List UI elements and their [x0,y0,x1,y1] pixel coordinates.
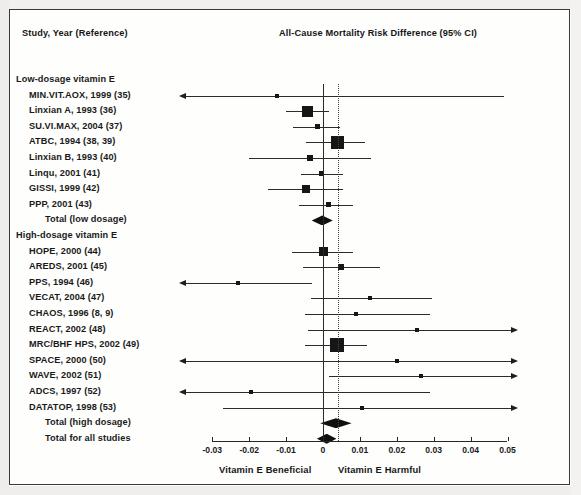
x-axis-tick-label: 0.02 [388,445,405,455]
page-margin-left [0,0,9,495]
summary-row-label: Total (low dosage) [45,214,127,225]
group-heading-label: Low-dosage vitamin E [16,74,115,85]
study-row-label: PPS, 1994 (46) [29,277,93,288]
plot-column-header: All-Cause Mortality Risk Difference (95%… [279,28,477,38]
study-row-label: CHAOS, 1996 (8, 9) [29,308,114,319]
x-axis-tick-label: 0.01 [352,445,369,455]
study-row-label: SU.VI.MAX, 2004 (37) [29,121,122,132]
study-row-label: SPACE, 2000 (50) [29,355,106,366]
study-row-label: PPP, 2001 (43) [29,199,92,210]
x-axis-tick-label: -0.02 [239,445,259,455]
summary-row-label: Total for all studies [45,433,131,444]
study-row-label: GISSI, 1999 (42) [29,183,100,194]
study-row-label: REACT, 2002 (48) [29,324,106,335]
page-margin-bottom [0,486,581,495]
study-row-label: HOPE, 2000 (44) [29,246,101,257]
x-axis-tick [434,437,435,441]
study-row-label: Linxian B, 1993 (40) [29,152,117,163]
study-row-label: MIN.VIT.AOX, 1999 (35) [29,90,131,101]
page-margin-right [571,0,581,495]
study-row-label: VECAT, 2004 (47) [29,292,104,303]
summary-row-label: Total (high dosage) [45,417,131,428]
x-axis-tick [286,437,287,441]
x-axis-tick [471,437,472,441]
forest-plot-figure: Study, Year (Reference) All-Cause Mortal… [0,0,581,495]
study-column-header: Study, Year (Reference) [22,28,128,38]
x-axis-line [212,441,507,442]
x-axis-tick-label: 0 [321,445,326,455]
axis-footer-harmful: Vitamin E Harmful [338,464,421,475]
x-axis-tick-label: -0.01 [276,445,296,455]
study-row-label: Linqu, 2001 (41) [29,168,100,179]
study-row-label: WAVE, 2002 (51) [29,370,101,381]
x-axis-tick-label: 0.03 [425,445,442,455]
x-axis-tick [323,437,324,441]
x-axis-tick [212,437,213,441]
study-row-label: DATATOP, 1998 (53) [29,402,116,413]
group-heading-label: High-dosage vitamin E [16,230,117,241]
x-axis-tick-label: 0.04 [462,445,479,455]
study-row-label: AREDS, 2001 (45) [29,261,107,272]
study-row-label: MRC/BHF HPS, 2002 (49) [29,339,139,350]
x-axis-tick [360,437,361,441]
study-row-label: Linxian A, 1993 (36) [29,105,116,116]
page-margin-top [0,0,581,9]
axis-footer-beneficial: Vitamin E Beneficial [219,464,311,475]
x-axis-tick-label: -0.03 [203,445,223,455]
x-axis-tick-label: 0.05 [499,445,516,455]
x-axis-tick [249,437,250,441]
x-axis-tick [397,437,398,441]
study-row-label: ADCS, 1997 (52) [29,386,101,397]
x-axis-tick [508,437,509,441]
study-row-label: ATBC, 1994 (38, 39) [29,136,116,147]
